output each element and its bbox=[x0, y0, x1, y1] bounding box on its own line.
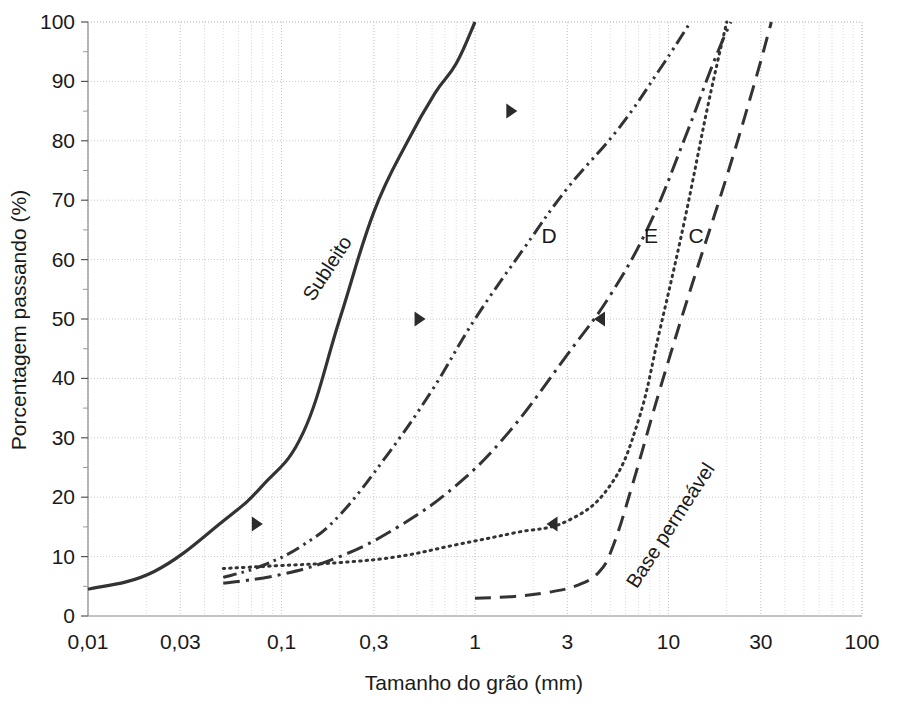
x-tick-label: 0,3 bbox=[359, 630, 388, 653]
grain-size-distribution-figure: 0,010,030,10,3131030100 0102030405060708… bbox=[0, 0, 897, 707]
y-tick-label: 50 bbox=[52, 307, 75, 330]
cut-off-caption-sliver bbox=[0, 697, 897, 707]
series-curve-subleito bbox=[88, 22, 475, 589]
x-tick-label: 0,01 bbox=[68, 630, 109, 653]
x-tick-label: 30 bbox=[749, 630, 772, 653]
arrow-marker-5 bbox=[547, 516, 558, 531]
label-base-permeavel: Base permeável bbox=[622, 459, 719, 592]
series-curve-d bbox=[223, 22, 690, 577]
arrow-marker-2 bbox=[415, 312, 426, 327]
x-axis-title: Tamanho do grão (mm) bbox=[365, 671, 583, 694]
series-curve-e bbox=[223, 22, 731, 583]
arrow-markers-group bbox=[252, 104, 605, 532]
y-tick-label: 80 bbox=[52, 129, 75, 152]
y-tick-label: 90 bbox=[52, 69, 75, 92]
x-tick-label: 100 bbox=[844, 630, 879, 653]
chart-canvas: 0,010,030,10,3131030100 0102030405060708… bbox=[0, 0, 897, 707]
x-tick-label: 3 bbox=[561, 630, 573, 653]
label-d: D bbox=[541, 224, 556, 247]
y-tick-label: 20 bbox=[52, 485, 75, 508]
y-tick-label: 60 bbox=[52, 248, 75, 271]
arrow-marker-4 bbox=[252, 516, 263, 531]
x-tick-label: 0,03 bbox=[160, 630, 201, 653]
arrow-marker-1 bbox=[506, 104, 517, 119]
x-axis-tick-labels: 0,010,030,10,3131030100 bbox=[68, 630, 880, 653]
x-tick-label: 0,1 bbox=[267, 630, 296, 653]
y-tick-label: 40 bbox=[52, 366, 75, 389]
label-e: E bbox=[644, 224, 658, 247]
label-c: C bbox=[688, 224, 703, 247]
y-tick-label: 100 bbox=[40, 10, 75, 33]
axis-tick-marks bbox=[81, 22, 88, 616]
x-tick-label: 10 bbox=[657, 630, 680, 653]
y-axis-tick-labels: 0102030405060708090100 bbox=[40, 10, 75, 627]
y-tick-label: 10 bbox=[52, 545, 75, 568]
y-tick-label: 70 bbox=[52, 188, 75, 211]
y-axis-title: Porcentagem passando (%) bbox=[7, 190, 30, 450]
y-tick-label: 0 bbox=[63, 604, 75, 627]
x-tick-label: 1 bbox=[469, 630, 481, 653]
y-tick-label: 30 bbox=[52, 426, 75, 449]
